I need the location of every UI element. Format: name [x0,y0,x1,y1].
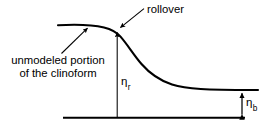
eta-b-label: ηb [246,96,257,112]
rollover-label: rollover [147,3,184,16]
unmodeled-leader-line [62,28,88,53]
eta-b-subscript: b [253,103,258,113]
eta-b-symbol: η [246,96,252,108]
unmodeled-portion-line2: of the clinoform [4,67,112,80]
eta-r-subscript: r [128,82,131,92]
eta-r-symbol: η [121,75,127,87]
unmodeled-portion-line1: unmodeled portion [11,54,105,66]
eta-r-label: ηr [121,75,130,91]
rollover-leader-line [120,9,144,28]
clinoform-figure: unmodeled portion of the clinoform rollo… [0,0,268,126]
unmodeled-portion-label: unmodeled portion of the clinoform [4,54,112,79]
